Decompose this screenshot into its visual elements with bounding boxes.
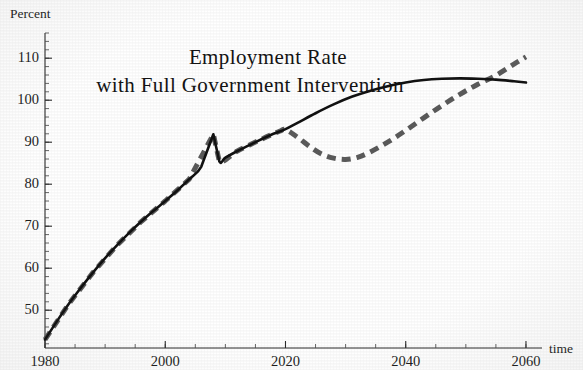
employment-rate-chart: Employment Rate with Full Government Int… xyxy=(0,0,583,370)
x-axis: 19802000202020402060 xyxy=(31,341,543,369)
data-series-layer xyxy=(45,57,526,340)
x-tick-label: 2060 xyxy=(511,353,540,369)
chart-figure: Employment Rate with Full Government Int… xyxy=(0,0,583,370)
x-tick-label: 2020 xyxy=(271,353,300,369)
y-tick-label: 90 xyxy=(25,133,40,149)
y-tick-label: 70 xyxy=(25,217,40,233)
chart-title-group: Employment Rate with Full Government Int… xyxy=(96,45,404,97)
y-tick-label: 50 xyxy=(25,301,40,317)
x-tick-label: 1980 xyxy=(31,353,60,369)
y-tick-label: 60 xyxy=(25,259,40,275)
chart-title: Employment Rate xyxy=(189,45,347,69)
series-line-intervention-dashed xyxy=(45,57,526,340)
y-axis: 5060708090100110 xyxy=(17,33,52,348)
y-axis-label: Percent xyxy=(10,6,51,21)
y-tick-label: 110 xyxy=(18,49,39,65)
y-tick-label: 100 xyxy=(17,91,39,107)
x-axis-label: time xyxy=(549,341,573,356)
y-tick-label: 80 xyxy=(25,175,40,191)
series-line-baseline-solid xyxy=(45,78,526,339)
x-tick-label: 2040 xyxy=(391,353,420,369)
x-tick-label: 2000 xyxy=(151,353,180,369)
